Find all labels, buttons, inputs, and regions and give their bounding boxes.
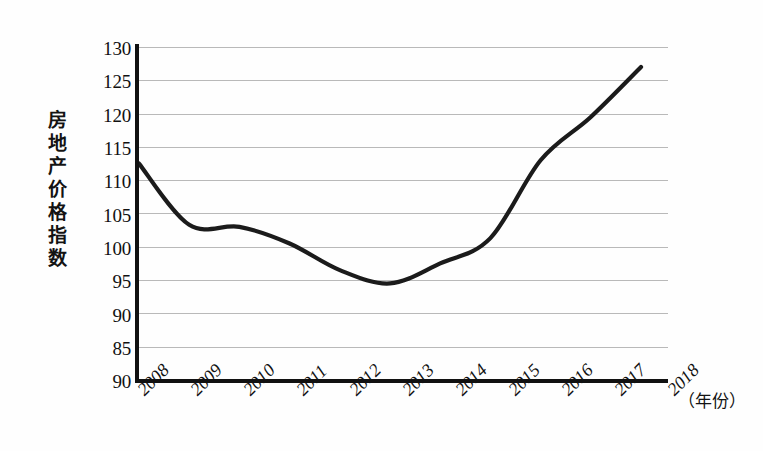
y-axis-tick-label: 90 (85, 372, 131, 391)
plot-area (139, 47, 668, 380)
y-axis-title-char: 房 (48, 110, 67, 131)
chart-figure: 房 地 产 价 格 指 数 130 125 120 115 110 105 10… (0, 0, 763, 451)
y-axis-title-char: 数 (48, 248, 67, 269)
y-axis-title-char: 地 (48, 133, 67, 154)
y-axis-line (135, 44, 139, 383)
y-axis-tick-label: 95 (85, 272, 131, 291)
y-axis-title-char: 指 (48, 225, 67, 246)
y-axis-tick-label: 90 (85, 306, 131, 325)
y-axis-title-char: 产 (48, 156, 67, 177)
y-axis-tick-label: 125 (85, 72, 131, 91)
y-axis-tick-label: 100 (85, 239, 131, 258)
y-axis-title-char: 格 (48, 202, 67, 223)
y-axis-tick-label: 85 (85, 339, 131, 358)
y-axis-tick-label: 130 (85, 39, 131, 58)
y-axis-tick-label: 105 (85, 206, 131, 225)
y-axis-tick-label: 120 (85, 106, 131, 125)
y-axis-tick-label: 110 (85, 172, 131, 191)
y-axis-title-char: 价 (48, 179, 67, 200)
y-axis-title: 房 地 产 价 格 指 数 (40, 110, 74, 269)
x-axis-unit-label: （年份） (678, 392, 746, 410)
data-series-line (139, 47, 668, 380)
y-axis-tick-label: 115 (85, 139, 131, 158)
